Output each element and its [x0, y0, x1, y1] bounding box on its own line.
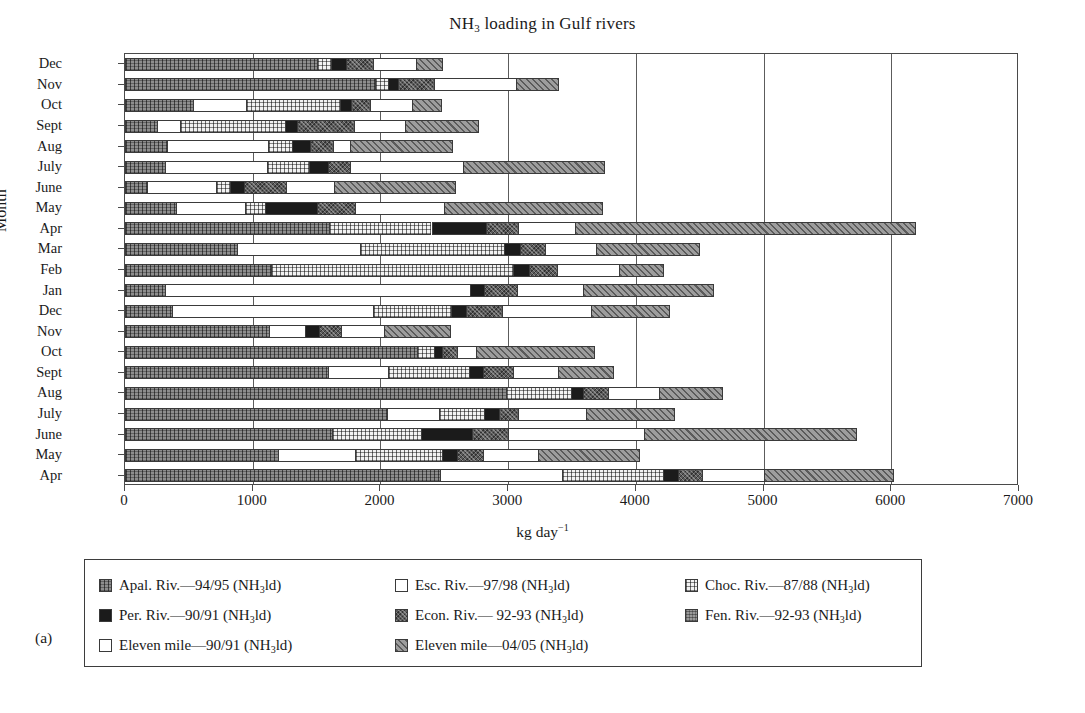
bar-segment-el04[interactable] [405, 120, 479, 133]
bar-segment-per[interactable] [421, 428, 472, 441]
bar-segment-el90[interactable] [457, 346, 476, 359]
bar-segment-apal[interactable] [125, 366, 328, 379]
bar-segment-econ[interactable] [351, 99, 370, 112]
bar-segment-apal[interactable] [125, 449, 278, 462]
legend-item-choc[interactable]: Choc. Riv.—87/88 (NH3ld) [685, 578, 913, 595]
legend-item-el90[interactable]: Eleven mile—90/91 (NH3ld) [99, 638, 395, 655]
bar-segment-el90[interactable] [355, 202, 444, 215]
bar-segment-el04[interactable] [596, 243, 699, 256]
bar-segment-choc[interactable] [180, 120, 285, 133]
bar-segment-choc[interactable] [332, 428, 421, 441]
bar-segment-apal[interactable] [125, 305, 172, 318]
bar-segment-choc[interactable] [216, 181, 230, 194]
bar-segment-econ[interactable] [499, 408, 518, 421]
bar-segment-econ[interactable] [472, 428, 508, 441]
bar-segment-choc[interactable] [317, 58, 331, 71]
bar-segment-el90[interactable] [434, 78, 516, 91]
bar-segment-choc[interactable] [506, 387, 571, 400]
bar-segment-esc[interactable] [278, 449, 355, 462]
bar-segment-per[interactable] [571, 387, 584, 400]
bar-segment-el04[interactable] [659, 387, 723, 400]
bar-segment-per[interactable] [388, 78, 398, 91]
bar-segment-choc[interactable] [271, 264, 514, 277]
bar-segment-apal[interactable] [125, 325, 269, 338]
bar-segment-apal[interactable] [125, 58, 317, 71]
bar-segment-per[interactable] [513, 264, 528, 277]
bar-segment-esc[interactable] [172, 305, 373, 318]
bar-segment-per[interactable] [442, 449, 457, 462]
legend-item-el04[interactable]: Eleven mile—04/05 (NH3ld) [395, 638, 685, 655]
bar-segment-el04[interactable] [334, 181, 455, 194]
bar-segment-el90[interactable] [557, 264, 620, 277]
bar-segment-el04[interactable] [416, 58, 443, 71]
bar-segment-choc[interactable] [268, 140, 292, 153]
bar-segment-el90[interactable] [502, 305, 591, 318]
bar-segment-el04[interactable] [444, 202, 602, 215]
bar-segment-el04[interactable] [463, 161, 605, 174]
bar-segment-apal[interactable] [125, 161, 165, 174]
bar-segment-el90[interactable] [518, 222, 574, 235]
legend-item-esc[interactable]: Esc. Riv.—97/98 (NH3ld) [395, 578, 685, 595]
bar-segment-el90[interactable] [513, 366, 558, 379]
bar-segment-econ[interactable] [297, 120, 353, 133]
bar-segment-el04[interactable] [575, 222, 916, 235]
bar-segment-el90[interactable] [702, 469, 763, 482]
bar-segment-el04[interactable] [350, 140, 453, 153]
bar-segment-econ[interactable] [317, 202, 355, 215]
bar-segment-choc[interactable] [562, 469, 663, 482]
bar-segment-esc[interactable] [237, 243, 360, 256]
bar-segment-el90[interactable] [286, 181, 335, 194]
bar-segment-esc[interactable] [176, 202, 245, 215]
bar-segment-per[interactable] [292, 140, 310, 153]
legend-item-fen[interactable]: Fen. Riv.—92-93 (NH3ld) [685, 608, 913, 625]
bar-segment-per[interactable] [331, 58, 346, 71]
bar-segment-apal[interactable] [125, 346, 417, 359]
bar-segment-apal[interactable] [125, 181, 147, 194]
bar-segment-apal[interactable] [125, 202, 176, 215]
bar-segment-esc[interactable] [269, 325, 305, 338]
bar-segment-per[interactable] [663, 469, 678, 482]
bar-segment-apal[interactable] [125, 469, 440, 482]
bar-segment-econ[interactable] [484, 284, 517, 297]
bar-segment-per[interactable] [305, 325, 319, 338]
bar-segment-el04[interactable] [412, 99, 441, 112]
bar-segment-per[interactable] [470, 284, 484, 297]
bar-segment-el90[interactable] [518, 408, 586, 421]
bar-segment-choc[interactable] [245, 202, 265, 215]
bar-segment-el90[interactable] [508, 428, 643, 441]
bar-segment-apal[interactable] [125, 120, 157, 133]
bar-segment-apal[interactable] [125, 264, 271, 277]
bar-segment-econ[interactable] [346, 58, 373, 71]
bar-segment-esc[interactable] [167, 140, 268, 153]
bar-segment-el90[interactable] [333, 140, 350, 153]
legend-item-per[interactable]: Per. Riv.—90/91 (NH3ld) [99, 608, 395, 625]
bar-segment-per[interactable] [451, 305, 466, 318]
bar-segment-econ[interactable] [457, 449, 483, 462]
bar-segment-el04[interactable] [619, 264, 664, 277]
bar-segment-el90[interactable] [608, 387, 659, 400]
bar-segment-econ[interactable] [442, 346, 457, 359]
bar-segment-el04[interactable] [384, 325, 450, 338]
bar-segment-per[interactable] [484, 408, 499, 421]
bar-segment-choc[interactable] [375, 78, 388, 91]
bar-segment-per[interactable] [265, 202, 316, 215]
bar-segment-econ[interactable] [583, 387, 607, 400]
bar-segment-econ[interactable] [398, 78, 434, 91]
bar-segment-per[interactable] [309, 161, 328, 174]
bar-segment-esc[interactable] [328, 366, 388, 379]
bar-segment-el04[interactable] [586, 408, 675, 421]
bar-segment-el04[interactable] [538, 449, 640, 462]
bar-segment-choc[interactable] [246, 99, 339, 112]
bar-segment-per[interactable] [285, 120, 298, 133]
legend-item-apal[interactable]: Apal. Riv.—94/95 (NH3ld) [99, 578, 395, 595]
bar-segment-econ[interactable] [319, 325, 341, 338]
bar-segment-econ[interactable] [529, 264, 557, 277]
bar-segment-el90[interactable] [370, 99, 412, 112]
bar-segment-esc[interactable] [440, 469, 561, 482]
bar-segment-el90[interactable] [373, 58, 416, 71]
bar-segment-econ[interactable] [244, 181, 286, 194]
bar-segment-el04[interactable] [516, 78, 559, 91]
bar-segment-esc[interactable] [387, 408, 439, 421]
bar-segment-apal[interactable] [125, 99, 193, 112]
bar-segment-el90[interactable] [545, 243, 596, 256]
